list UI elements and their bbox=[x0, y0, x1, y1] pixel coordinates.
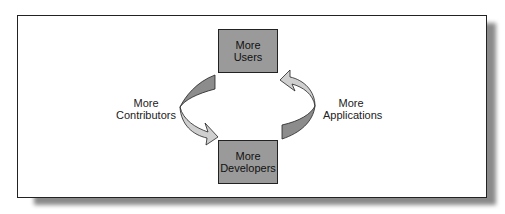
left-curved-arrow-icon bbox=[180, 75, 218, 145]
node-more-developers: More Developers bbox=[218, 140, 278, 184]
node-users-line1: More bbox=[235, 39, 260, 51]
edge-contributors-line1: More bbox=[116, 97, 176, 109]
node-users-line2: Users bbox=[234, 51, 263, 63]
node-more-users: More Users bbox=[218, 29, 278, 73]
edge-label-more-applications: More Applications bbox=[323, 97, 379, 121]
right-curved-arrow-icon bbox=[280, 70, 315, 139]
edge-applications-line2: Applications bbox=[323, 109, 379, 121]
node-developers-line1: More bbox=[235, 150, 260, 162]
edge-applications-line1: More bbox=[323, 97, 379, 109]
node-developers-line2: Developers bbox=[220, 162, 276, 174]
edge-label-more-contributors: More Contributors bbox=[116, 97, 176, 121]
edge-contributors-line2: Contributors bbox=[116, 109, 176, 121]
